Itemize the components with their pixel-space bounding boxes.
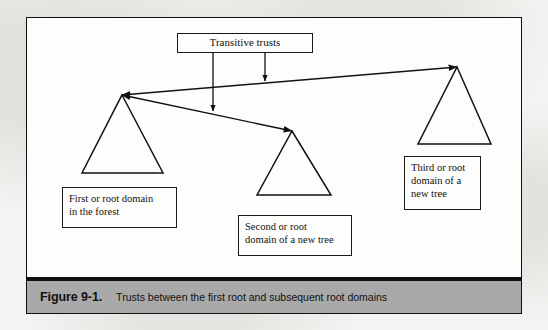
label-box-transitive-trusts: Transitive trusts <box>177 33 313 53</box>
label-box-first-domain: First or root domain in the forest <box>62 187 177 228</box>
third-domain-label-line-1: Third or root <box>411 162 480 175</box>
first-domain-label-line-1: First or root domain <box>69 193 176 206</box>
figure-page: Transitive trusts First or root domain i… <box>0 0 548 330</box>
figure-caption-bar: Figure 9-1. Trusts between the first roo… <box>26 278 522 314</box>
second-domain-label-line-2: domain of a new tree <box>245 234 351 247</box>
second-domain-label-line-1: Second or root <box>245 221 351 234</box>
label-box-second-domain: Second or root domain of a new tree <box>238 215 352 256</box>
first-domain-label-line-2: in the forest <box>69 206 176 219</box>
figure-number: Figure 9-1. <box>40 290 102 304</box>
third-domain-label-line-3: new tree <box>411 188 480 201</box>
figure-caption-text: Trusts between the first root and subseq… <box>116 291 387 303</box>
third-domain-label-line-2: domain of a <box>411 175 480 188</box>
transitive-trusts-label: Transitive trusts <box>210 36 281 49</box>
label-box-third-domain: Third or root domain of a new tree <box>404 156 481 210</box>
